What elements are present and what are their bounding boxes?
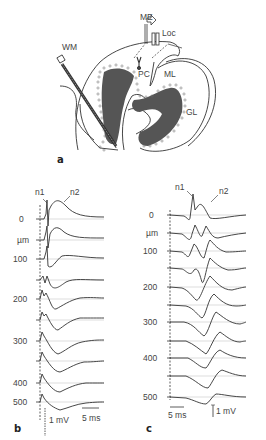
panel-c-n1-label: n1 bbox=[175, 182, 185, 192]
panel-b-label: b bbox=[14, 423, 21, 434]
label-gl: GL bbox=[186, 107, 198, 117]
panel-c-scale-voltage: 1 mV bbox=[216, 406, 236, 416]
panel-b-n1-label: n1 bbox=[35, 187, 45, 197]
panel-b-depth-400: 400 bbox=[13, 378, 27, 388]
panel-b-depth-unit: µm bbox=[17, 235, 29, 245]
panel-b-scale-voltage: 1 mV bbox=[49, 415, 69, 425]
panel-b-depth-200: 200 bbox=[13, 294, 27, 304]
panel-c-depth-300: 300 bbox=[143, 317, 157, 327]
panel-b-traces bbox=[36, 196, 104, 436]
panel-b-depth-500: 500 bbox=[13, 397, 27, 407]
panel-b-scale-time: 5 ms bbox=[82, 413, 100, 423]
panel-c-traces bbox=[167, 191, 246, 417]
panel-c-depth-0: 0 bbox=[149, 210, 154, 220]
panel-c-label: c bbox=[146, 423, 152, 434]
granular-layer bbox=[102, 69, 183, 146]
panel-c-depth-500: 500 bbox=[143, 392, 157, 402]
panel-b-n2-label: n2 bbox=[70, 187, 80, 197]
label-me: ME bbox=[140, 12, 153, 22]
loc-electrode bbox=[152, 33, 159, 45]
label-wm: WM bbox=[62, 42, 77, 52]
panel-c-scale-time: 5 ms bbox=[168, 410, 186, 420]
label-pc: PC bbox=[138, 69, 150, 79]
panel-c-depth-400: 400 bbox=[143, 353, 157, 363]
panel-c-n2-label: n2 bbox=[219, 186, 229, 196]
panel-c-depth-unit: µm bbox=[146, 228, 158, 238]
label-loc: Loc bbox=[162, 28, 176, 38]
label-ml: ML bbox=[164, 69, 176, 79]
panel-a-label: a bbox=[57, 154, 64, 165]
panel-c-depth-100: 100 bbox=[143, 246, 157, 256]
panel-b-depth-0: 0 bbox=[19, 214, 24, 224]
panel-b-depth-100: 100 bbox=[13, 254, 27, 264]
panel-c-depth-200: 200 bbox=[143, 282, 157, 292]
panel-b-depth-300: 300 bbox=[13, 336, 27, 346]
figure: ME Loc WM PC ML GL a bbox=[0, 0, 266, 440]
